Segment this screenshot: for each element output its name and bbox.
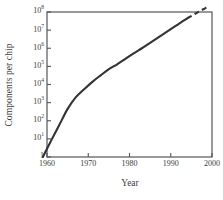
x-tick-label: 1980 [115, 160, 145, 168]
moores-law-chart: Components per chip 11011021031041051061… [0, 0, 223, 200]
plot-area [0, 0, 223, 200]
plot-frame [47, 12, 212, 157]
x-tick-label: 2000 [197, 160, 223, 168]
x-tick-label: 1960 [32, 160, 62, 168]
x-tick-label: 1990 [156, 160, 186, 168]
x-tick-label: 1970 [73, 160, 103, 168]
x-axis-title: Year [47, 178, 213, 188]
